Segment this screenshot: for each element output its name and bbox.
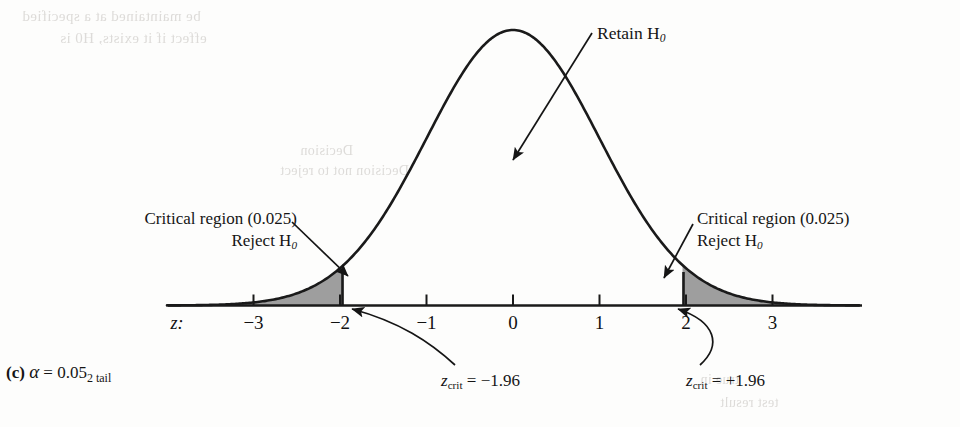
x-axis-tick-label: 1 bbox=[580, 312, 620, 334]
zcrit-right-variable: z bbox=[686, 371, 693, 390]
x-axis-tick-label: 2 bbox=[666, 312, 706, 334]
zcrit-left-subscript: crit bbox=[448, 379, 463, 391]
left-reject-text: Reject H bbox=[231, 231, 291, 250]
zcrit-right-label: zcrit = +1.96 bbox=[686, 370, 765, 393]
caption-value: 0.05 bbox=[57, 363, 87, 382]
left-critical-region-label: Critical region (0.025) Reject H0 bbox=[72, 208, 297, 252]
x-axis-tick-label: 0 bbox=[493, 312, 533, 334]
right-critical-region-line2: Reject H0 bbox=[697, 230, 850, 253]
right-reject-text: Reject H bbox=[697, 231, 757, 250]
retain-null-subscript: 0 bbox=[660, 32, 666, 44]
x-axis-tick-label: −1 bbox=[407, 312, 447, 334]
caption-alpha-symbol: α bbox=[29, 361, 39, 382]
right-critical-region-label: Critical region (0.025) Reject H0 bbox=[697, 208, 850, 252]
figure-caption: (c) α = 0.052 tail bbox=[6, 360, 111, 387]
retain-null-text: Retain H bbox=[597, 23, 660, 43]
caption-equals: = bbox=[43, 363, 53, 382]
zcrit-left-value: = −1.96 bbox=[463, 371, 520, 390]
retain-leader-arrow bbox=[513, 33, 592, 160]
left-critical-region-line2: Reject H0 bbox=[72, 230, 297, 253]
caption-subscript: 2 tail bbox=[87, 371, 111, 385]
normal-curve bbox=[167, 30, 859, 305]
x-axis-tick-label: −3 bbox=[234, 312, 274, 334]
right-critical-region-line1: Critical region (0.025) bbox=[697, 208, 850, 230]
x-axis-variable-label: z: bbox=[157, 313, 197, 334]
x-axis-tick-label: 3 bbox=[753, 312, 793, 334]
zcrit-left-label: zcrit = −1.96 bbox=[441, 370, 520, 393]
left-critical-leader-arrow bbox=[292, 222, 348, 276]
right-reject-subscript: 0 bbox=[757, 239, 763, 251]
left-critical-region-line1: Critical region (0.025) bbox=[72, 208, 297, 230]
caption-letter: (c) bbox=[6, 363, 25, 382]
zcrit-right-subscript: crit bbox=[693, 379, 708, 391]
zcrit-left-variable: z bbox=[441, 371, 448, 390]
retain-null-label: Retain H0 bbox=[597, 22, 665, 46]
figure-panel: be maintained at a specified effect if i… bbox=[0, 0, 960, 427]
zcrit-right-value: = +1.96 bbox=[708, 371, 765, 390]
left-reject-subscript: 0 bbox=[291, 239, 297, 251]
x-axis-tick-label: −2 bbox=[320, 312, 360, 334]
